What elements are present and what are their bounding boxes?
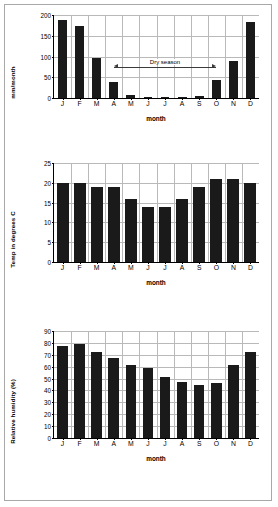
y-axis-tick-mark bbox=[52, 36, 54, 37]
dry-season-label: Dry season bbox=[148, 59, 182, 65]
x-axis-tick-label: F bbox=[78, 440, 82, 447]
gridline-vertical bbox=[242, 163, 243, 262]
bar bbox=[159, 207, 171, 262]
x-axis-tick-label: D bbox=[248, 264, 253, 271]
gridline-vertical bbox=[88, 163, 89, 262]
y-axis-tick-label: 0 bbox=[47, 259, 51, 266]
y-axis-tick-label: 150 bbox=[40, 32, 51, 39]
y-axis-tick-mark bbox=[52, 438, 54, 439]
gridline-vertical bbox=[105, 331, 106, 438]
bar bbox=[210, 179, 222, 262]
y-axis-tick-label: 200 bbox=[40, 12, 51, 19]
x-axis-tick-label: O bbox=[214, 440, 219, 447]
y-axis-tick-label: 50 bbox=[44, 74, 51, 81]
gridline-vertical bbox=[225, 163, 226, 262]
bar bbox=[58, 20, 67, 98]
x-axis-tick-label: M bbox=[94, 440, 100, 447]
x-axis-tick-label: A bbox=[112, 100, 117, 107]
y-axis-tick-label: 0 bbox=[47, 435, 51, 442]
chart-relative-humidity: Relative humidity (%) 010203040506070809… bbox=[5, 325, 273, 497]
y-axis-tick-mark bbox=[52, 390, 54, 391]
bar bbox=[74, 344, 85, 438]
y-axis-tick-label: 30 bbox=[44, 399, 51, 406]
y-axis-tick-mark bbox=[52, 402, 54, 403]
y-axis-tick-label: 50 bbox=[44, 375, 51, 382]
bar bbox=[108, 187, 120, 262]
gridline-vertical bbox=[157, 163, 158, 262]
x-axis-tick-label: M bbox=[128, 440, 134, 447]
gridline-vertical bbox=[157, 331, 158, 438]
bar bbox=[109, 82, 118, 98]
dry-season-arrow-line bbox=[114, 67, 217, 68]
x-axis-tick-label: F bbox=[78, 100, 82, 107]
x-axis-tick-label: D bbox=[248, 440, 253, 447]
bar bbox=[108, 358, 119, 438]
gridline-vertical bbox=[208, 15, 209, 98]
bar bbox=[125, 199, 137, 262]
x-axis-labels: JFMAMJJASOND bbox=[54, 440, 259, 452]
gridline-vertical bbox=[208, 163, 209, 262]
bar bbox=[245, 352, 256, 438]
gridline-vertical bbox=[105, 163, 106, 262]
x-axis-tick-label: J bbox=[163, 440, 166, 447]
gridline-vertical bbox=[122, 15, 123, 98]
x-axis-tick-label: O bbox=[214, 100, 219, 107]
y-axis-tick-mark bbox=[52, 183, 54, 184]
bar bbox=[177, 382, 188, 438]
gridline-vertical bbox=[225, 331, 226, 438]
x-axis-tick-label: N bbox=[231, 100, 236, 107]
x-axis-tick-label: M bbox=[94, 264, 100, 271]
y-axis-tick-label: 20 bbox=[44, 411, 51, 418]
bar bbox=[228, 365, 239, 438]
figure-frame: mm/month 050100150200JFMAMJJASONDDry sea… bbox=[4, 4, 272, 501]
y-axis-tick-label: 70 bbox=[44, 351, 51, 358]
chart2-x-axis-title: month bbox=[53, 279, 259, 286]
y-axis-tick-mark bbox=[52, 57, 54, 58]
y-axis-tick-mark bbox=[52, 98, 54, 99]
bar bbox=[244, 183, 256, 262]
x-axis-tick-label: J bbox=[146, 440, 149, 447]
chart2-plot-area: 0510152025JFMAMJJASOND bbox=[53, 163, 259, 263]
bar bbox=[91, 352, 102, 438]
gridline-vertical bbox=[225, 15, 226, 98]
y-axis-tick-label: 90 bbox=[44, 328, 51, 335]
bar bbox=[57, 183, 69, 262]
gridline-vertical bbox=[88, 15, 89, 98]
y-axis-tick-mark bbox=[52, 222, 54, 223]
y-axis-tick-mark bbox=[52, 379, 54, 380]
x-axis-tick-label: M bbox=[128, 100, 134, 107]
chart1-x-axis-title: month bbox=[53, 115, 259, 122]
y-axis-tick-mark bbox=[52, 77, 54, 78]
y-axis-tick-mark bbox=[52, 262, 54, 263]
bar bbox=[176, 199, 188, 262]
x-axis-tick-label: J bbox=[61, 440, 64, 447]
bar bbox=[91, 187, 103, 262]
bar bbox=[143, 368, 154, 438]
x-axis-tick-label: S bbox=[197, 264, 202, 271]
gridline-vertical bbox=[71, 15, 72, 98]
x-axis-tick-label: O bbox=[214, 264, 219, 271]
y-axis-tick-mark bbox=[52, 367, 54, 368]
y-axis-tick-label: 100 bbox=[40, 53, 51, 60]
x-axis-tick-label: A bbox=[112, 264, 117, 271]
gridline-vertical bbox=[71, 331, 72, 438]
x-axis-labels: JFMAMJJASOND bbox=[54, 100, 259, 112]
y-axis-tick-mark bbox=[52, 203, 54, 204]
y-axis-tick-mark bbox=[52, 163, 54, 164]
x-axis-tick-label: J bbox=[163, 264, 166, 271]
gridline-vertical bbox=[174, 15, 175, 98]
chart1-plot-area: 050100150200JFMAMJJASONDDry season bbox=[53, 15, 259, 99]
y-axis-tick-mark bbox=[52, 242, 54, 243]
x-axis-tick-label: N bbox=[231, 264, 236, 271]
x-axis-tick-label: M bbox=[128, 264, 134, 271]
gridline-vertical bbox=[208, 331, 209, 438]
y-axis-tick-mark bbox=[52, 343, 54, 344]
y-axis-tick-label: 10 bbox=[44, 423, 51, 430]
y-axis-tick-label: 60 bbox=[44, 363, 51, 370]
gridline-vertical bbox=[139, 331, 140, 438]
y-axis-tick-label: 40 bbox=[44, 387, 51, 394]
bar bbox=[74, 183, 86, 262]
bar bbox=[229, 61, 238, 98]
x-axis-tick-label: J bbox=[61, 100, 64, 107]
x-axis-tick-label: A bbox=[180, 440, 185, 447]
